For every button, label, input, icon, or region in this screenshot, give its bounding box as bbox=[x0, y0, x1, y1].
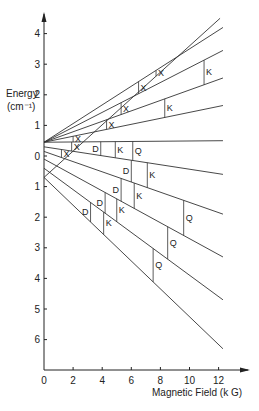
y-tick-label: 1 bbox=[34, 181, 40, 192]
transition-label-d: D bbox=[92, 144, 99, 154]
energy-level-level-1 bbox=[44, 18, 220, 177]
x-tick-label: 8 bbox=[158, 375, 164, 386]
x-tick-label: 10 bbox=[184, 375, 196, 386]
transition-label-k: K bbox=[117, 145, 123, 155]
y-tick-label: 3 bbox=[34, 59, 40, 70]
y-axis-title-line1: Energy bbox=[6, 88, 38, 99]
transition-label-q: Q bbox=[186, 213, 193, 223]
transition-label-q: Q bbox=[155, 260, 162, 270]
x-axis-title: Magnetic Field (k G) bbox=[152, 387, 242, 398]
y-axis-arrow-icon bbox=[42, 12, 47, 22]
transition-label-x: X bbox=[123, 104, 129, 114]
energy-level-level-3 bbox=[44, 50, 223, 142]
y-tick-label: 1 bbox=[34, 120, 40, 131]
transition-label-k: K bbox=[149, 170, 155, 180]
energy-level-lines bbox=[44, 18, 223, 348]
x-axis-arrow-icon bbox=[240, 368, 250, 373]
transition-label-d: D bbox=[113, 185, 120, 195]
transition-label-k: K bbox=[136, 191, 142, 201]
transition-label-k: K bbox=[119, 205, 125, 215]
energy-level-level-11 bbox=[44, 177, 223, 348]
energy-level-level-9 bbox=[44, 159, 223, 257]
y-tick-label: 4 bbox=[34, 28, 40, 39]
transition-label-q: Q bbox=[170, 238, 177, 248]
y-tick-label: 0 bbox=[34, 151, 40, 162]
transition-label-x: X bbox=[141, 83, 147, 93]
x-tick-label: 0 bbox=[41, 375, 47, 386]
energy-level-level-4 bbox=[44, 78, 223, 142]
energy-vs-field-chart: 43210123456024681012 XXXXXXXKKDKQDKDKQDK… bbox=[0, 0, 259, 411]
transition-label-d: D bbox=[97, 198, 104, 208]
y-tick-label: 3 bbox=[34, 242, 40, 253]
transition-label-x: X bbox=[109, 120, 115, 130]
transition-label-d: D bbox=[82, 207, 89, 217]
energy-level-level-6 bbox=[44, 141, 223, 143]
x-tick-label: 6 bbox=[129, 375, 135, 386]
x-tick-label: 4 bbox=[99, 375, 105, 386]
y-tick-label: 5 bbox=[34, 304, 40, 315]
energy-level-level-2 bbox=[44, 27, 223, 142]
x-tick-label: 12 bbox=[213, 375, 225, 386]
transition-label-q: Q bbox=[135, 146, 142, 156]
transition-label-k: K bbox=[167, 103, 173, 113]
transition-label-x: X bbox=[74, 142, 80, 152]
transition-label-k: K bbox=[106, 218, 112, 228]
y-tick-label: 6 bbox=[34, 334, 40, 345]
transition-label-k: K bbox=[206, 67, 212, 77]
energy-level-level-5 bbox=[44, 106, 223, 143]
y-tick-label: 2 bbox=[34, 212, 40, 223]
energy-level-level-10 bbox=[44, 168, 223, 300]
x-tick-label: 2 bbox=[70, 375, 76, 386]
transition-label-x: X bbox=[158, 68, 164, 78]
y-axis-title-line2: (cm⁻¹) bbox=[7, 101, 35, 112]
y-tick-label: 4 bbox=[34, 273, 40, 284]
transition-label-d: D bbox=[123, 166, 130, 176]
transition-label-x: X bbox=[63, 149, 69, 159]
